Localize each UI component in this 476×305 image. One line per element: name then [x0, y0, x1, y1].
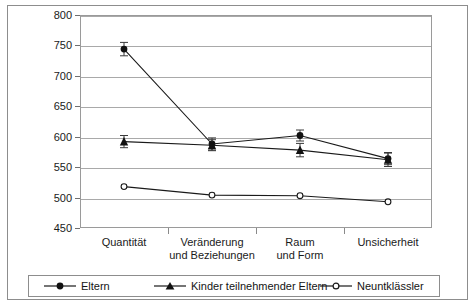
ytick-label-750: 750	[28, 40, 72, 51]
xlabel-line: Raum	[256, 236, 344, 249]
filled-circle-icon	[43, 280, 77, 292]
legend-entry-kinder-teilnehmender-eltern: Kinder teilnehmender Eltern	[153, 276, 327, 296]
ytick-label-600: 600	[28, 132, 72, 143]
series-neuntklaessler	[121, 184, 391, 205]
chart-legend: Eltern Kinder teilnehmender Eltern Neunt…	[28, 275, 440, 297]
ytick-label-500: 500	[28, 193, 72, 204]
xlabel-veraenderung-und-beziehungen: Veränderung und Beziehungen	[168, 236, 256, 262]
series-eltern	[120, 42, 392, 164]
xlabel-raum-und-form: Raum und Form	[256, 236, 344, 262]
xtick-mark-2	[256, 228, 257, 234]
legend-label-neuntklaessler: Neuntklässler	[357, 280, 424, 292]
xlabel-line: und Form	[256, 249, 344, 262]
filled-triangle-icon	[153, 280, 187, 292]
ytick-label-650: 650	[28, 101, 72, 112]
legend-label-eltern: Eltern	[81, 280, 110, 292]
xlabel-unsicherheit: Unsicherheit	[344, 236, 432, 249]
xlabel-line: und Beziehungen	[168, 249, 256, 262]
ytick-label-800: 800	[28, 10, 72, 21]
xlabel-line: Unsicherheit	[344, 236, 432, 249]
ytick-label-550: 550	[28, 162, 72, 173]
ytick-label-450: 450	[28, 223, 72, 234]
xlabel-line: Veränderung	[168, 236, 256, 249]
series-layer	[80, 15, 432, 228]
chart-screenshot: 800 750 700 650 600 550 500 450	[0, 0, 476, 305]
ytick-label-700: 700	[28, 71, 72, 82]
legend-entry-eltern: Eltern	[43, 276, 110, 296]
xlabel-line: Quantität	[84, 236, 164, 249]
ytick-mark-450	[75, 228, 80, 229]
line-chart: 800 750 700 650 600 550 500 450	[0, 0, 476, 305]
legend-label-kinder-teilnehmender-eltern: Kinder teilnehmender Eltern	[191, 280, 327, 292]
xlabel-quantitaet: Quantität	[84, 236, 164, 249]
legend-entry-neuntklaessler: Neuntklässler	[319, 276, 424, 296]
xtick-mark-3	[344, 228, 345, 234]
open-circle-icon	[319, 280, 353, 292]
xtick-mark-1	[168, 228, 169, 234]
